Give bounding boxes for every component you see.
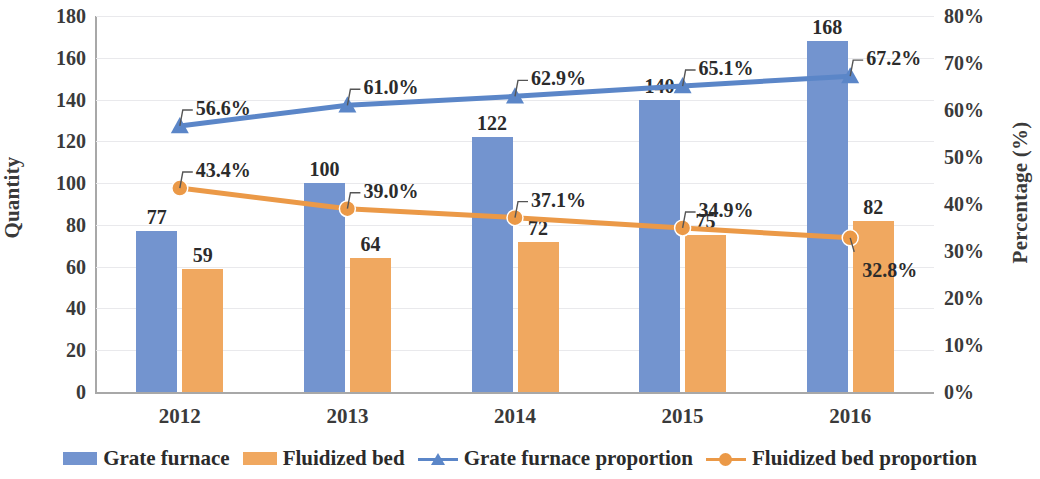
legend-line-marker-icon [706,452,746,466]
y2-tick-label: 40% [944,194,1014,214]
legend-marker-icon [719,453,732,466]
percentage-data-label: 37.1% [531,190,586,210]
y2-tick-label: 20% [944,288,1014,308]
percentage-data-label: 62.9% [531,68,586,88]
legend-item-fluidized-bed-proportion[interactable]: Fluidized bed proportion [706,446,977,471]
legend-item-fluidized-bed[interactable]: Fluidized bed [243,446,405,471]
y-tick-label: 60 [14,257,86,277]
percentage-data-label: 67.2% [866,48,921,68]
percentage-data-label: 39.0% [363,181,418,201]
x-axis-label-2015: 2015 [623,404,743,429]
y2-tick-label: 80% [944,6,1014,26]
x-axis-label-2012: 2012 [120,404,240,429]
legend-item-grate-furnace-proportion[interactable]: Grate furnace proportion [418,446,693,471]
percentage-data-label: 34.9% [699,200,754,220]
legend-swatch-icon [243,452,277,465]
chart-legend: Grate furnaceFluidized bedGrate furnace … [0,446,1040,471]
y-tick-label: 120 [14,131,86,151]
y2-tick-label: 70% [944,53,1014,73]
x-axis-label-2013: 2013 [287,404,407,429]
legend-label: Fluidized bed proportion [752,446,977,471]
chart-container: Quantity Percentage (%) 1801601401201008… [0,0,1040,479]
legend-swatch-icon [63,452,97,465]
y2-tick-label: 10% [944,335,1014,355]
y-tick-label: 0 [14,382,86,402]
legend-item-grate-furnace[interactable]: Grate furnace [63,446,230,471]
y-tick-label: 40 [14,298,86,318]
legend-line-marker-icon [418,452,458,466]
y-tick-label: 20 [14,340,86,360]
y-tick-label: 100 [14,173,86,193]
x-axis-line [96,392,934,394]
percentage-data-label: 61.0% [363,77,418,97]
percentage-data-label: 65.1% [699,58,754,78]
percentage-data-label: 32.8% [862,260,917,280]
y2-tick-label: 50% [944,147,1014,167]
y2-tick-label: 0% [944,382,1014,402]
x-axis-label-2016: 2016 [790,404,910,429]
line-series-layer [96,16,934,392]
y-tick-label: 160 [14,48,86,68]
legend-label: Grate furnace proportion [464,446,693,471]
legend-label: Grate furnace [103,446,230,471]
legend-label: Fluidized bed [283,446,405,471]
y2-tick-label: 30% [944,241,1014,261]
percentage-data-label: 56.6% [196,98,251,118]
y2-tick-label: 60% [944,100,1014,120]
y-tick-label: 140 [14,90,86,110]
percentage-data-label: 43.4% [196,160,251,180]
x-axis-label-2014: 2014 [455,404,575,429]
plot-area: 775910064122721407516882 56.6%61.0%62.9%… [96,16,934,392]
y-tick-label: 80 [14,215,86,235]
legend-marker-icon [431,453,445,465]
y-tick-label: 180 [14,6,86,26]
